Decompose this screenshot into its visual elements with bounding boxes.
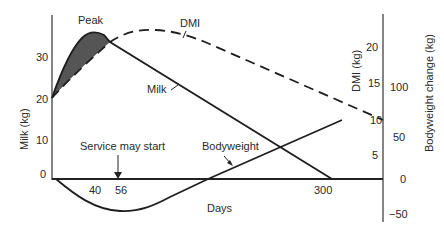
milk-label: Milk [147,83,167,95]
milk-tick-20: 20 [36,93,48,105]
dmi-tick-5: 5 [372,149,378,161]
service-arrow-down-icon [114,172,122,179]
dmi-tick-10: 10 [370,114,382,126]
peak-shaded-area [52,33,110,98]
dmi-pointer [183,31,186,38]
bw-axis-label: Bodyweight change (kg) [423,34,435,152]
milk-axis-label: Milk (kg) [18,108,30,150]
milk-tick-0: 0 [40,168,46,180]
bodyweight-label: Bodyweight [202,140,259,152]
bw-tick-0: 0 [400,173,406,185]
peak-label: Peak [78,14,104,26]
bw-tick-100: 100 [390,81,408,93]
milk-pointer [171,85,178,90]
x-tick-56: 56 [115,184,127,196]
bodyweight-line [56,120,342,211]
x-axis-label: Days [207,202,233,214]
bw-tick-minus50: −50 [389,208,408,220]
dmi-tick-20: 20 [366,41,378,53]
lactation-chart: Peak DMI Milk Bodyweight Service may sta… [0,0,444,232]
dmi-tick-15: 15 [368,77,380,89]
service-label: Service may start [80,140,165,152]
x-tick-40: 40 [89,184,101,196]
bw-tick-50: 50 [393,131,405,143]
dmi-axis-label: DMI (kg) [350,50,362,92]
dmi-label: DMI [180,17,200,29]
x-tick-300: 300 [314,184,332,196]
milk-tick-10: 10 [36,134,48,146]
milk-tick-30: 30 [36,51,48,63]
